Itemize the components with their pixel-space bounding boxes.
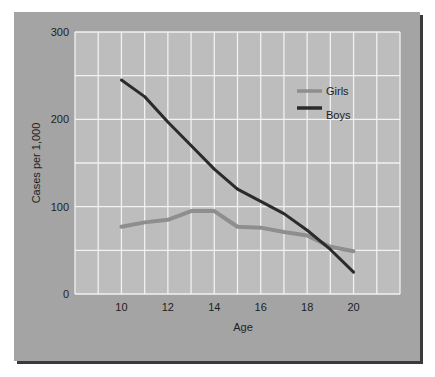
y-axis-label: Cases per 1,000: [30, 123, 42, 204]
x-tick-label: 12: [162, 301, 174, 313]
y-tick-label: 100: [51, 201, 69, 213]
y-tick-label: 300: [51, 26, 69, 38]
y-tick-label: 200: [51, 113, 69, 125]
y-axis-ticks: 0100200300: [51, 26, 69, 300]
x-tick-label: 14: [208, 301, 220, 313]
x-axis-label: Age: [233, 321, 253, 333]
legend-girls-label: Girls: [326, 85, 349, 97]
legend-boys-label: Boys: [326, 109, 351, 121]
x-axis-ticks: 101214161820: [115, 301, 359, 313]
y-tick-label: 0: [63, 288, 69, 300]
line-chart: 0100200300 101214161820 Cases per 1,000 …: [0, 0, 435, 377]
x-tick-label: 18: [301, 301, 313, 313]
x-tick-label: 16: [255, 301, 267, 313]
x-tick-label: 20: [347, 301, 359, 313]
x-tick-label: 10: [115, 301, 127, 313]
